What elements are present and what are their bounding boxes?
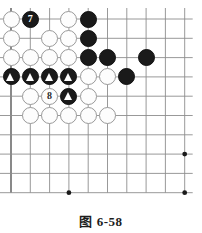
go-stone-black[interactable]	[3, 68, 20, 85]
go-stone-white[interactable]	[22, 107, 39, 124]
go-stone-white[interactable]	[80, 88, 97, 105]
go-diagram-figure: 78 图 6-58	[0, 0, 202, 233]
go-stone-white[interactable]	[3, 11, 20, 28]
star-point	[182, 190, 187, 195]
go-stone-white[interactable]	[80, 68, 97, 85]
move-number-label: 7	[23, 12, 38, 27]
go-board: 78	[0, 0, 202, 208]
go-stone-white[interactable]	[22, 49, 39, 66]
go-stone-black[interactable]	[80, 30, 97, 47]
go-stone-white[interactable]	[99, 107, 116, 124]
go-stone-black[interactable]	[80, 49, 97, 66]
triangle-marker-icon	[26, 73, 34, 81]
go-stone-white[interactable]	[3, 49, 20, 66]
go-stone-black[interactable]	[99, 49, 116, 66]
figure-caption: 图 6-58	[0, 208, 202, 233]
triangle-marker-icon	[6, 73, 14, 81]
star-point	[67, 190, 72, 195]
go-stone-white[interactable]	[41, 107, 58, 124]
go-stone-white[interactable]: 8	[41, 88, 58, 105]
go-stone-black[interactable]: 7	[22, 11, 39, 28]
go-stone-white[interactable]	[80, 107, 97, 124]
go-stone-white[interactable]	[3, 30, 20, 47]
go-stone-white[interactable]	[22, 88, 39, 105]
triangle-marker-icon	[64, 73, 72, 81]
star-point	[182, 152, 187, 157]
triangle-marker-icon	[64, 92, 72, 100]
go-stone-white[interactable]	[41, 30, 58, 47]
move-number-label: 8	[42, 89, 57, 104]
go-stone-black[interactable]	[60, 88, 77, 105]
triangle-marker-icon	[45, 73, 53, 81]
go-stone-white[interactable]	[60, 11, 77, 28]
go-stone-black[interactable]	[80, 11, 97, 28]
go-stone-black[interactable]	[138, 49, 155, 66]
